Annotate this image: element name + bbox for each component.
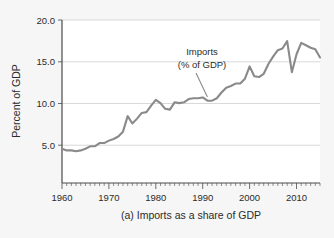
x-tick-label-2000: 2000: [239, 192, 260, 203]
imports-share-of-gdp-chart: 20.0 15.0 10.0 5.0 Percent of GDP 1960 1…: [0, 0, 334, 238]
figure-container: 20.0 15.0 10.0 5.0 Percent of GDP 1960 1…: [0, 0, 334, 238]
figure-caption: (a) Imports as a share of GDP: [121, 209, 261, 221]
y-axis-title: Percent of GDP: [10, 64, 22, 138]
y-tick-label-15: 15.0: [37, 56, 56, 67]
annotation-label-line2: (% of GDP): [178, 59, 227, 70]
plot-area-background: [62, 20, 320, 183]
x-tick-label-1980: 1980: [145, 192, 166, 203]
y-tick-label-5: 5.0: [42, 140, 55, 151]
x-tick-label-1990: 1990: [192, 192, 213, 203]
y-tick-label-20: 20.0: [37, 15, 56, 26]
annotation-label-line1: Imports: [186, 46, 218, 57]
y-tick-label-10: 10.0: [37, 98, 56, 109]
x-tick-label-1970: 1970: [98, 192, 119, 203]
x-tick-label-1960: 1960: [51, 192, 72, 203]
x-tick-label-2010: 2010: [286, 192, 307, 203]
